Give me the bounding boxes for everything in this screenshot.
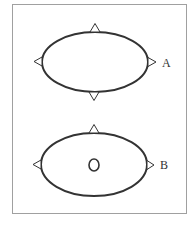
left-triangle-icon: [33, 160, 41, 169]
top-triangle-icon: [90, 24, 100, 33]
figure-b: B: [33, 125, 168, 197]
figure-a: A: [34, 24, 171, 101]
label-b: B: [160, 158, 168, 172]
right-triangle-icon: [147, 161, 154, 170]
right-triangle-icon: [148, 58, 156, 67]
diagram-frame: [13, 5, 187, 214]
label-a: A: [162, 56, 171, 70]
bottom-triangle-icon: [89, 92, 99, 101]
diagram-canvas: A B: [0, 0, 194, 228]
inner-circle-icon: [89, 159, 99, 171]
left-triangle-icon: [34, 57, 42, 66]
ellipse-b: [41, 133, 147, 196]
ellipse-a: [42, 32, 148, 92]
top-triangle-icon: [89, 125, 99, 134]
